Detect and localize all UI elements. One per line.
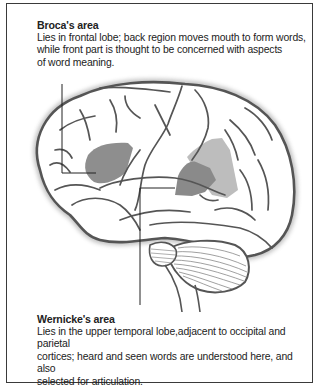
broca-label: Broca's area Lies in frontal lobe; back … xyxy=(37,19,307,69)
cerebrum-outline xyxy=(37,82,294,258)
broca-description: Lies in frontal lobe; back region moves … xyxy=(37,32,307,70)
wernicke-title: Wernicke's area xyxy=(37,313,307,326)
cerebellum xyxy=(150,241,249,293)
broca-title: Broca's area xyxy=(37,19,307,32)
wernicke-description: Lies in the upper temporal lobe,adjacent… xyxy=(37,326,307,388)
wernicke-label: Wernicke's area Lies in the upper tempor… xyxy=(37,313,307,388)
